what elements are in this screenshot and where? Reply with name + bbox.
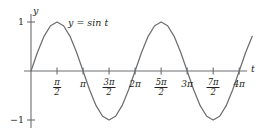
x-tick-label: 5π2 [155, 78, 168, 97]
x-axis-label: t [251, 64, 255, 74]
sine-function-figure: y t y = sin t π2π3π22π5π23π7π24π 1−1 [0, 0, 273, 139]
x-tick-label: π [80, 80, 86, 89]
x-tick-label: 3π [181, 80, 193, 89]
y-tick-label: −1 [10, 115, 24, 125]
x-tick-label: 7π2 [207, 78, 220, 97]
x-tick-label: 3π2 [103, 78, 116, 97]
y-axis-label: y [33, 6, 38, 16]
curve-equation-label: y = sin t [68, 18, 108, 28]
x-tick-label: π2 [53, 78, 61, 97]
plot-area [0, 0, 273, 139]
x-tick-label: 2π [129, 80, 141, 89]
y-tick-label: 1 [18, 17, 24, 27]
x-tick-label: 4π [233, 80, 245, 89]
